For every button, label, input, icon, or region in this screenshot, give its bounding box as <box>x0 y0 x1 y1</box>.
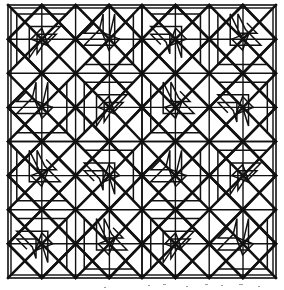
scan-speck-0 <box>148 285 150 286</box>
scan-speck-6 <box>258 286 260 287</box>
scan-speck-4 <box>221 285 223 286</box>
quilt-pattern-figure <box>0 0 284 290</box>
pattern-canvas <box>0 0 284 290</box>
scan-speck-5 <box>239 284 243 285</box>
scan-speck-2 <box>186 286 188 287</box>
scan-speck-7 <box>104 287 106 288</box>
scan-speck-1 <box>163 284 166 285</box>
scan-speck-3 <box>205 284 208 285</box>
